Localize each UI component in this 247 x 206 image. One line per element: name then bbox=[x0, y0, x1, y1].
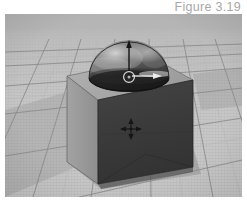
figure-container: Figure 3.19 bbox=[0, 0, 247, 206]
figure-caption: Figure 3.19 bbox=[101, 0, 241, 14]
y-axis-translate-handle bbox=[126, 40, 132, 76]
four-arrow-move-gizmo bbox=[120, 118, 142, 140]
manipulator-layer[interactable] bbox=[5, 14, 242, 197]
3d-viewport[interactable] bbox=[5, 14, 242, 197]
x-axis-translate-handle bbox=[132, 73, 162, 79]
